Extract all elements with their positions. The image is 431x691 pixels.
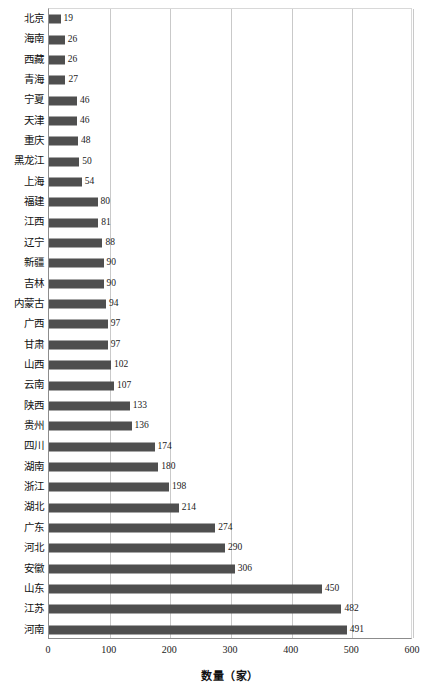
bar: [49, 96, 77, 105]
bar-row: 27: [49, 70, 411, 90]
category-label: 上海: [24, 172, 44, 192]
category-label: 山东: [24, 579, 44, 599]
x-tick-label-0: 0: [46, 645, 51, 655]
bar-value-label: 88: [102, 238, 115, 248]
bar-value-label: 174: [155, 442, 172, 452]
category-label: 河北: [24, 538, 44, 558]
category-label: 贵州: [24, 416, 44, 436]
bar: [49, 401, 130, 410]
category-label: 青海: [24, 70, 44, 90]
bar-value-label: 107: [114, 381, 131, 391]
bar-row: 180: [49, 457, 411, 477]
bar-value-label: 274: [215, 523, 232, 533]
bar-row: 50: [49, 151, 411, 171]
bar: [49, 259, 104, 268]
x-axis-title: 数量（家）: [48, 667, 412, 683]
bar: [49, 320, 108, 329]
category-label: 云南: [24, 375, 44, 395]
bar-row: 274: [49, 518, 411, 538]
category-label: 河南: [24, 620, 44, 640]
bar-value-label: 133: [130, 401, 147, 411]
bar: [49, 157, 79, 166]
bar-value-label: 97: [108, 320, 121, 330]
category-label: 四川: [24, 436, 44, 456]
category-label: 浙江: [24, 477, 44, 497]
category-label: 广西: [24, 314, 44, 334]
bar-row: 174: [49, 436, 411, 456]
bar-value-label: 90: [104, 279, 117, 289]
bar-value-label: 94: [106, 299, 119, 309]
bar-row: 491: [49, 620, 411, 640]
category-label: 山西: [24, 355, 44, 375]
category-label: 吉林: [24, 274, 44, 294]
bar-value-label: 50: [79, 157, 92, 167]
bar-value-label: 46: [77, 116, 90, 126]
bar-row: 90: [49, 253, 411, 273]
bar: [49, 422, 132, 431]
bar-rows: 1926262746464850548081889090949797102107…: [49, 9, 411, 638]
bar-value-label: 482: [341, 605, 358, 615]
category-label: 新疆: [24, 253, 44, 273]
category-label: 广东: [24, 518, 44, 538]
x-tick-label-100: 100: [101, 645, 116, 655]
bar: [49, 544, 225, 553]
bar-row: 136: [49, 416, 411, 436]
bar-row: 290: [49, 538, 411, 558]
bar: [49, 503, 179, 512]
bar-row: 214: [49, 498, 411, 518]
bar-row: 198: [49, 477, 411, 497]
category-label: 江西: [24, 213, 44, 233]
bar-value-label: 27: [65, 75, 78, 85]
bar-value-label: 46: [77, 96, 90, 106]
bar-row: 46: [49, 90, 411, 110]
bar: [49, 585, 322, 594]
bar-row: 88: [49, 233, 411, 253]
category-label: 福建: [24, 192, 44, 212]
bar-row: 80: [49, 192, 411, 212]
bar-value-label: 97: [108, 340, 121, 350]
bar-row: 133: [49, 396, 411, 416]
bar-value-label: 180: [158, 462, 175, 472]
bar-row: 46: [49, 111, 411, 131]
bar-value-label: 214: [179, 503, 196, 513]
gridline-600: [413, 9, 414, 638]
x-tick-label-200: 200: [162, 645, 177, 655]
plot-area: 1926262746464850548081889090949797102107…: [48, 8, 412, 639]
bar-row: 97: [49, 314, 411, 334]
bar: [49, 381, 114, 390]
bar: [49, 76, 65, 85]
category-label: 甘肃: [24, 335, 44, 355]
bar-row: 26: [49, 29, 411, 49]
category-label: 安徽: [24, 559, 44, 579]
bar-value-label: 102: [111, 360, 128, 370]
bar: [49, 218, 98, 227]
bar-value-label: 306: [235, 564, 252, 574]
bar-value-label: 491: [347, 625, 364, 635]
x-tick-label-300: 300: [223, 645, 238, 655]
category-label: 内蒙古: [14, 294, 44, 314]
bar-value-label: 54: [82, 177, 95, 187]
bar-row: 102: [49, 355, 411, 375]
bar: [49, 483, 169, 492]
category-label: 海南: [24, 29, 44, 49]
bar: [49, 442, 155, 451]
bar: [49, 300, 106, 309]
bar: [49, 605, 341, 614]
bar: [49, 361, 111, 370]
bar-value-label: 136: [132, 422, 149, 432]
category-label: 陕西: [24, 396, 44, 416]
bar-chart: 北京海南西藏青海宁夏天津重庆黑龙江上海福建江西辽宁新疆吉林内蒙古广西甘肃山西云南…: [0, 0, 431, 691]
bar-value-label: 26: [65, 55, 78, 65]
bar-row: 48: [49, 131, 411, 151]
bar: [49, 340, 108, 349]
category-label: 湖北: [24, 498, 44, 518]
bar-row: 94: [49, 294, 411, 314]
bar: [49, 462, 158, 471]
bar-row: 107: [49, 375, 411, 395]
bar-row: 26: [49, 50, 411, 70]
bar: [49, 198, 98, 207]
x-tick-label-500: 500: [344, 645, 359, 655]
bar: [49, 524, 215, 533]
bar-value-label: 80: [98, 198, 111, 208]
bar-row: 19: [49, 9, 411, 29]
